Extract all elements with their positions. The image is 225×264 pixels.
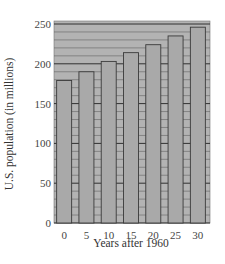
- x-tick-label: 30: [192, 229, 204, 241]
- bar-10: [101, 61, 116, 223]
- y-tick-label: 150: [35, 98, 52, 110]
- bar-0: [57, 81, 72, 223]
- x-tick-label: 0: [61, 229, 67, 241]
- y-axis-ticks: 050100150200250: [35, 18, 52, 229]
- y-tick-label: 200: [35, 58, 52, 70]
- bar-chart: 050100150200250 051015202530 Years after…: [0, 0, 225, 264]
- x-axis-title: Years after 1960: [93, 237, 169, 249]
- y-axis-title: U.S. population (in millions): [3, 58, 16, 191]
- bar-20: [146, 45, 161, 223]
- y-tick-label: 250: [35, 18, 52, 30]
- y-tick-label: 0: [46, 217, 52, 229]
- bar-25: [168, 36, 183, 223]
- x-tick-label: 5: [84, 229, 90, 241]
- bar-15: [124, 53, 139, 223]
- bar-30: [190, 27, 205, 223]
- x-tick-label: 25: [170, 229, 182, 241]
- y-tick-label: 50: [40, 177, 52, 189]
- y-tick-label: 100: [35, 137, 52, 149]
- bar-5: [79, 72, 94, 223]
